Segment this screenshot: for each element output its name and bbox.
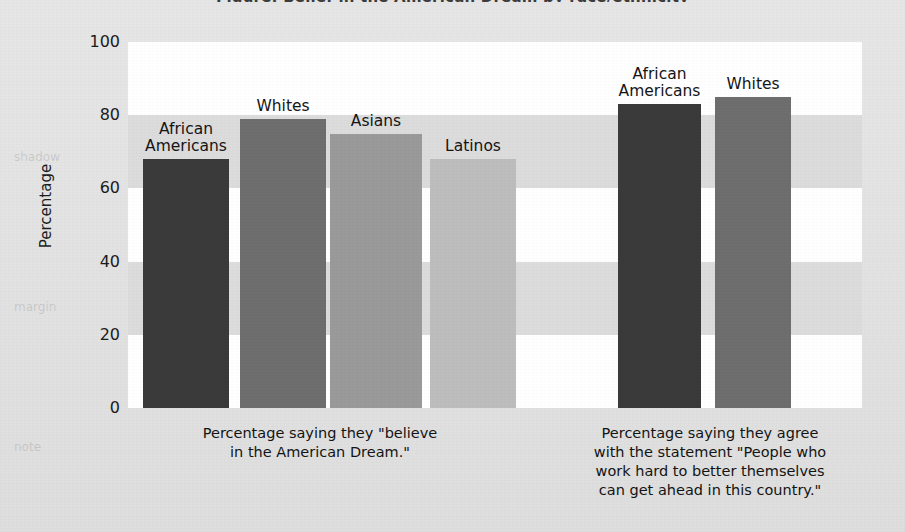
y-tick-label-60: 60 xyxy=(76,180,120,196)
y-tick-label-0: 0 xyxy=(76,400,120,416)
clipped-title-text: Figure: Belief in the American Dream by … xyxy=(0,0,905,2)
y-tick-label-100: 100 xyxy=(76,34,120,50)
caption-believe-american-dream: Percentage saying they "believe in the A… xyxy=(150,424,490,462)
bar-label-group-believe-asians: Asians xyxy=(308,113,444,130)
y-tick-label-80: 80 xyxy=(76,107,120,123)
bar-label-group-believe-african-americans: African Americans xyxy=(121,121,251,155)
y-axis-title: Percentage xyxy=(37,146,55,266)
plot-area: African AmericansWhitesAsiansLatinosAfri… xyxy=(128,42,862,408)
caption-work-hard-get-ahead: Percentage saying they agree with the st… xyxy=(545,424,875,500)
bar-label-group-believe-latinos: Latinos xyxy=(408,138,538,155)
bar-group-believe-asians xyxy=(330,134,422,409)
bar-label-group-work-hard-whites: Whites xyxy=(693,76,813,93)
bar-chart-figure: Percentage 020406080100 African American… xyxy=(0,12,905,532)
bar-group-believe-latinos xyxy=(430,159,516,408)
y-tick-label-20: 20 xyxy=(76,327,120,343)
bar-group-work-hard-whites xyxy=(715,97,791,408)
bar-group-believe-african-americans xyxy=(143,159,229,408)
bars-layer: African AmericansWhitesAsiansLatinosAfri… xyxy=(128,42,862,408)
figure-page: Figure: Belief in the American Dream by … xyxy=(0,0,905,532)
y-tick-label-40: 40 xyxy=(76,254,120,270)
y-axis-tick-labels: 020406080100 xyxy=(60,12,120,532)
bar-group-work-hard-african-americans xyxy=(618,104,701,408)
bar-group-believe-whites xyxy=(240,119,326,408)
